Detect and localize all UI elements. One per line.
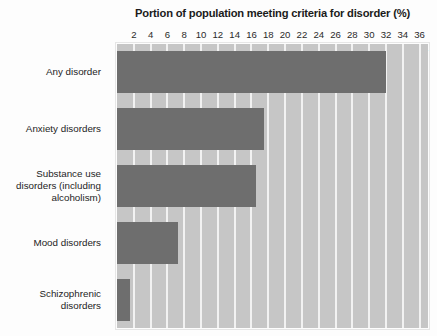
category-label: Anxiety disorders — [0, 123, 101, 135]
category-label: Schizophrenic disorders — [0, 288, 101, 312]
bar — [117, 51, 386, 93]
x-tick-label: 36 — [409, 29, 431, 40]
bar — [117, 222, 178, 264]
chart-figure: Portion of population meeting criteria f… — [0, 0, 437, 336]
plot-area — [117, 44, 428, 328]
category-label: Substance use disorders (including alcoh… — [0, 168, 101, 204]
gridline — [402, 44, 404, 328]
bar — [117, 108, 264, 150]
chart-title: Portion of population meeting criteria f… — [117, 7, 428, 19]
bar — [117, 279, 130, 321]
bar — [117, 165, 256, 207]
category-label: Mood disorders — [0, 237, 101, 249]
gridline — [419, 44, 421, 328]
category-label-column: Any disorderAnxiety disordersSubstance u… — [0, 46, 110, 328]
x-axis-tick-labels: 24681012141618202224262830323436 — [117, 29, 428, 44]
category-label: Any disorder — [0, 66, 101, 78]
